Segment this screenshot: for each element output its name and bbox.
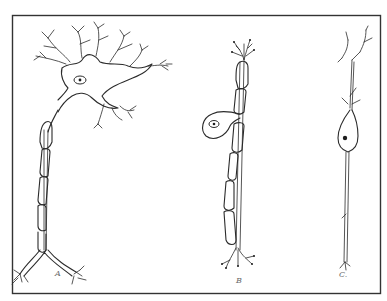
neuron-b-dendrites [231, 39, 255, 60]
neuron-c-axon [340, 152, 350, 270]
label-c: C. [339, 270, 347, 279]
neuron-c-soma [338, 110, 358, 152]
neuron-c-dendrites [338, 26, 372, 110]
label-a: A [54, 269, 61, 278]
neuron-figure: A B [0, 0, 387, 301]
neuron-a-axon [12, 110, 86, 284]
neuron-c-nucleus [343, 136, 347, 140]
neuron-a-soma [58, 55, 152, 112]
neuron-b: B [203, 39, 255, 285]
neuron-b-axon [221, 61, 255, 269]
figure-frame [13, 16, 381, 294]
neuron-c: C. [338, 26, 372, 279]
label-b: B [235, 276, 242, 285]
neuron-a-dendrites [34, 22, 172, 128]
neuron-a: A [12, 22, 172, 284]
